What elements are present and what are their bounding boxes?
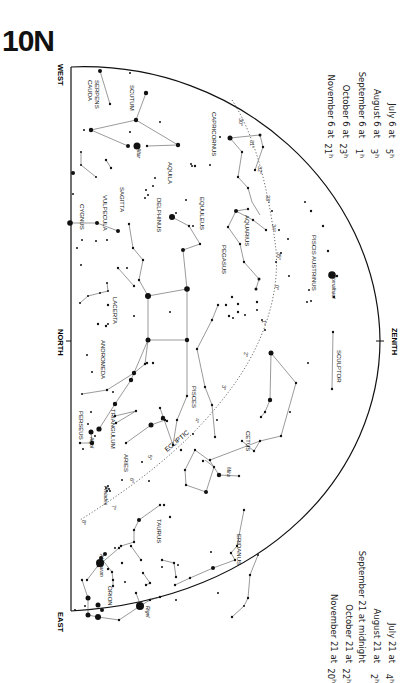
star-dot: [126, 267, 128, 269]
star-dot: [129, 378, 133, 382]
star-dot: [129, 131, 131, 133]
star-dot: [174, 584, 176, 586]
zenith-label: ZENITH: [390, 328, 399, 355]
star-dot: [89, 430, 94, 435]
star-dot: [176, 143, 180, 147]
star-dot: [253, 450, 255, 452]
star-dot: [217, 304, 219, 306]
star-dot: [185, 484, 187, 486]
constellation-label: ERIDANUS: [236, 534, 242, 565]
star-dot: [144, 91, 148, 95]
star-dot: [135, 410, 137, 412]
star-dot: [210, 551, 212, 553]
star-dot: [86, 579, 88, 581]
star-dot: [184, 469, 186, 471]
star-dot: [172, 444, 174, 446]
star-dot: [161, 566, 163, 568]
star-dot: [244, 314, 246, 316]
star-dot: [106, 239, 108, 241]
star-dot: [106, 389, 108, 391]
star-dot: [145, 189, 147, 191]
star-dot: [114, 547, 116, 549]
star-dot: [107, 568, 109, 570]
star-dot: [188, 225, 190, 227]
time-hour: 2h: [368, 663, 383, 683]
star-dot: [83, 129, 85, 131]
star-dot: [149, 582, 151, 584]
star-dot: [231, 616, 233, 618]
star-dot: [81, 393, 83, 395]
star-dot: [121, 479, 123, 481]
star-name-label: Algol: [89, 436, 95, 449]
ecliptic-degree-mark: 4°: [194, 418, 200, 423]
star-dot: [243, 261, 245, 263]
time-hour: [355, 663, 367, 683]
star-dot: [262, 146, 264, 148]
star-dot: [81, 239, 83, 241]
star-dot: [249, 574, 251, 576]
star-dot: [202, 460, 204, 462]
star-dot: [109, 103, 111, 105]
star-dot: [304, 201, 306, 203]
ecliptic-degree-mark: 5°: [147, 455, 153, 460]
star-dot: [194, 165, 196, 167]
ecliptic-degree-mark: 32°: [257, 166, 263, 174]
constellation-label: PEGASUS: [221, 245, 227, 274]
star-dot: [142, 259, 144, 261]
star-dot: [124, 581, 126, 583]
star-dot: [100, 608, 104, 612]
star-dot: [113, 402, 117, 406]
star-dot: [132, 247, 134, 249]
star-dot: [80, 164, 82, 166]
time-hour: 20h: [325, 663, 340, 683]
north-label: NORTH: [56, 329, 65, 356]
star-dot: [194, 449, 196, 451]
star-dot: [255, 288, 258, 291]
star-dot: [159, 407, 161, 409]
star-dot: [216, 419, 218, 421]
star-dot: [289, 411, 291, 413]
constellation-label: SERPENSCAUDA: [87, 80, 100, 109]
ecliptic-degree-mark: 6°: [129, 478, 135, 483]
star-dot: [256, 301, 258, 303]
star-dot: [190, 163, 192, 165]
star-dot: [331, 388, 333, 390]
ecliptic-line: [80, 100, 277, 520]
star-dot: [76, 247, 78, 249]
star-dot: [146, 362, 148, 364]
star-dot: [257, 554, 259, 556]
star-dot: [86, 613, 91, 618]
star-dot: [107, 290, 109, 292]
star-dot: [271, 210, 273, 212]
star-dot: [166, 420, 168, 422]
star-dot: [268, 398, 272, 402]
constellation-label: SAGITTA: [119, 187, 125, 212]
star-dot: [128, 223, 130, 225]
star-dot: [209, 164, 211, 166]
star-dot: [74, 609, 76, 611]
star-dot: [145, 584, 147, 586]
ecliptic-degree-mark: 7°: [111, 505, 117, 510]
constellation-label: SCULPTOR: [336, 350, 342, 383]
star-dot: [211, 566, 215, 570]
star-dot: [280, 252, 282, 254]
star-dot: [86, 354, 88, 356]
star-dot: [152, 362, 154, 364]
star-dot: [186, 395, 188, 397]
star-dot: [67, 220, 73, 226]
star-dot: [169, 214, 175, 220]
star-dot: [175, 212, 177, 214]
star-dot: [112, 391, 114, 393]
star-dot: [256, 309, 258, 311]
star-dot: [169, 311, 171, 313]
star-dot: [146, 145, 148, 147]
star-dot: [134, 118, 138, 122]
constellation-label: TRIANGULUM: [110, 409, 116, 449]
star-dot: [117, 267, 119, 269]
star-dot: [121, 562, 123, 564]
star-dot: [237, 311, 239, 313]
star-dot: [89, 128, 93, 132]
star-dot: [295, 382, 297, 384]
star-dot: [199, 243, 201, 245]
star-dot: [214, 436, 216, 438]
